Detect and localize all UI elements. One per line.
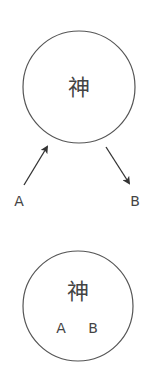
bottom-diagram: 神 A B	[23, 251, 133, 361]
bottom-circle-label: 神	[67, 279, 89, 304]
label-A: A	[14, 193, 24, 209]
arrow-in-A	[24, 147, 47, 185]
diagram-canvas: 神 A B 神 A B	[0, 0, 154, 388]
bottom-circle	[23, 251, 133, 361]
label-B: B	[130, 193, 140, 209]
bottom-label-A: A	[56, 320, 66, 336]
top-diagram: 神 A B	[14, 31, 140, 209]
bottom-label-B: B	[88, 320, 98, 336]
arrow-out-B	[106, 147, 129, 183]
top-circle-label: 神	[68, 75, 90, 100]
